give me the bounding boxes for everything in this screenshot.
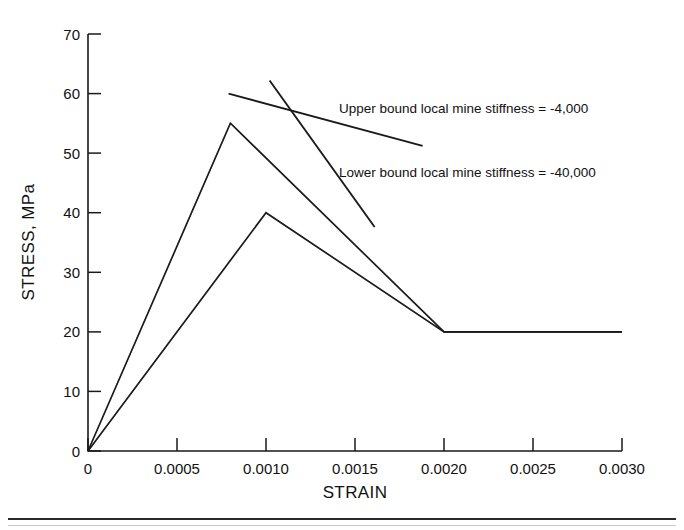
x-axis-tick-labels: 0 0.0005 0.0010 0.0015 0.0020 0.0025 0.0… <box>84 460 645 477</box>
y-axis-tick-labels: 0 10 20 30 40 50 60 70 <box>63 26 80 460</box>
x-tick-label: 0.0015 <box>332 460 378 477</box>
y-tick-label: 20 <box>63 323 80 340</box>
y-axis-ticks <box>88 34 101 451</box>
y-tick-label: 10 <box>63 383 80 400</box>
y-tick-label: 30 <box>63 264 80 281</box>
upper-bound-annotation: Upper bound local mine stiffness = -4,00… <box>339 101 588 116</box>
x-tick-label: 0.0030 <box>599 460 645 477</box>
axis-frame <box>88 34 622 451</box>
x-tick-label: 0.0025 <box>510 460 556 477</box>
y-tick-label: 50 <box>63 145 80 162</box>
stress-strain-curve-peak-40 <box>88 213 622 451</box>
x-tick-label: 0 <box>84 460 92 477</box>
y-tick-label: 0 <box>72 443 80 460</box>
lower-bound-annotation: Lower bound local mine stiffness = -40,0… <box>339 165 596 180</box>
stress-strain-chart: 0 10 20 30 40 50 60 70 0 0.0005 0.0010 0… <box>0 0 684 530</box>
x-tick-label: 0.0010 <box>243 460 289 477</box>
y-tick-label: 70 <box>63 26 80 43</box>
footer-divider-secondary <box>8 525 676 526</box>
x-axis-ticks <box>88 438 622 451</box>
y-tick-label: 60 <box>63 85 80 102</box>
figure-container: 0 10 20 30 40 50 60 70 0 0.0005 0.0010 0… <box>0 0 684 530</box>
y-axis-title: STRESS, MPa <box>19 183 38 300</box>
x-axis-title: STRAIN <box>323 483 388 502</box>
y-tick-label: 40 <box>63 204 80 221</box>
x-tick-label: 0.0020 <box>421 460 467 477</box>
footer-divider <box>8 518 676 520</box>
x-tick-label: 0.0005 <box>154 460 200 477</box>
